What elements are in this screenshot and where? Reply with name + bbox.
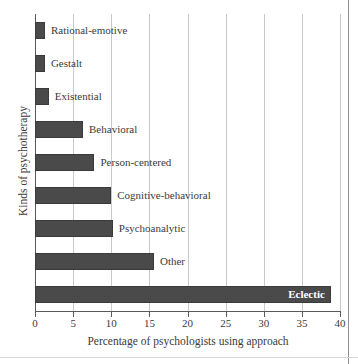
tick-label-20: 20: [173, 317, 203, 330]
tick-label-30: 30: [249, 317, 279, 330]
bar-label: Cognitive-behavioral: [117, 188, 210, 203]
bar-label: Other: [160, 254, 185, 269]
bar-label: Person-centered: [100, 155, 171, 170]
bar: [35, 154, 94, 171]
bar-row: Rational-emotive: [35, 14, 340, 47]
bar-label: Psychoanalytic: [119, 221, 186, 236]
tick-label-35: 35: [287, 317, 317, 330]
bar-row: Gestalt: [35, 47, 340, 80]
bar-row: Person-centered: [35, 146, 340, 179]
bar-row: Eclectic: [35, 278, 340, 311]
bar: [35, 121, 83, 138]
tick-label-0: 0: [20, 317, 50, 330]
bar-row: Existential: [35, 80, 340, 113]
bar-row: Cognitive-behavioral: [35, 179, 340, 212]
page-edge-bottom: [0, 357, 358, 358]
x-axis-title: Percentage of psychologists using approa…: [35, 335, 341, 347]
bar-row: Behavioral: [35, 113, 340, 146]
tick-label-40: 40: [325, 317, 355, 330]
tick-label-10: 10: [96, 317, 126, 330]
bar-label: Gestalt: [51, 56, 82, 71]
bar: [35, 55, 45, 72]
gridline-40: [340, 14, 341, 311]
bar: [35, 253, 154, 270]
tick-label-15: 15: [134, 317, 164, 330]
bar-label: Eclectic: [35, 287, 325, 302]
bar: [35, 88, 49, 105]
bar-row: Other: [35, 245, 340, 278]
y-axis-title: Kinds of psychotherapy: [17, 61, 29, 261]
bar: [35, 22, 45, 39]
bar-label: Rational-emotive: [51, 23, 127, 38]
bar-label: Existential: [55, 89, 102, 104]
plot-area: Rational-emotiveGestaltExistentialBehavi…: [35, 14, 340, 311]
page-edge-right: [348, 0, 349, 364]
tick-label-5: 5: [58, 317, 88, 330]
bar-label: Behavioral: [89, 122, 137, 137]
bar-chart: Rational-emotiveGestaltExistentialBehavi…: [0, 0, 358, 364]
tick-label-25: 25: [211, 317, 241, 330]
bar-row: Psychoanalytic: [35, 212, 340, 245]
bar: [35, 220, 113, 237]
bar: [35, 187, 111, 204]
